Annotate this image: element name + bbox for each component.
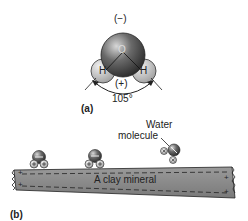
diagram-canvas [0, 0, 248, 221]
clay-charge-left-bottom: + [18, 181, 23, 189]
positive-charge-label: (+) [115, 79, 128, 89]
free-water-molecule [161, 138, 181, 164]
hydrogen-right-label: H [140, 66, 147, 76]
oxygen-atom-label: O [118, 45, 126, 55]
clay-charge-right-bottom: + [224, 188, 229, 196]
clay-mineral-label: A clay mineral [94, 175, 156, 185]
bond-angle-label: 105° [112, 94, 133, 104]
clay-charge-left-top: + [18, 169, 23, 177]
oxygen-atom [101, 33, 145, 77]
hydrogen-left-label: H [99, 66, 106, 76]
adsorbed-water-molecule-2 [85, 150, 104, 169]
panel-b-label: (b) [10, 209, 23, 220]
adsorbed-water-molecule-1 [30, 151, 48, 169]
panel-a-label: (a) [81, 103, 93, 114]
clay-charge-right-top: + [224, 174, 229, 182]
water-label-line2: molecule [118, 131, 158, 141]
water-label-line1: Water [146, 120, 172, 130]
negative-charge-label: (−) [114, 14, 127, 24]
